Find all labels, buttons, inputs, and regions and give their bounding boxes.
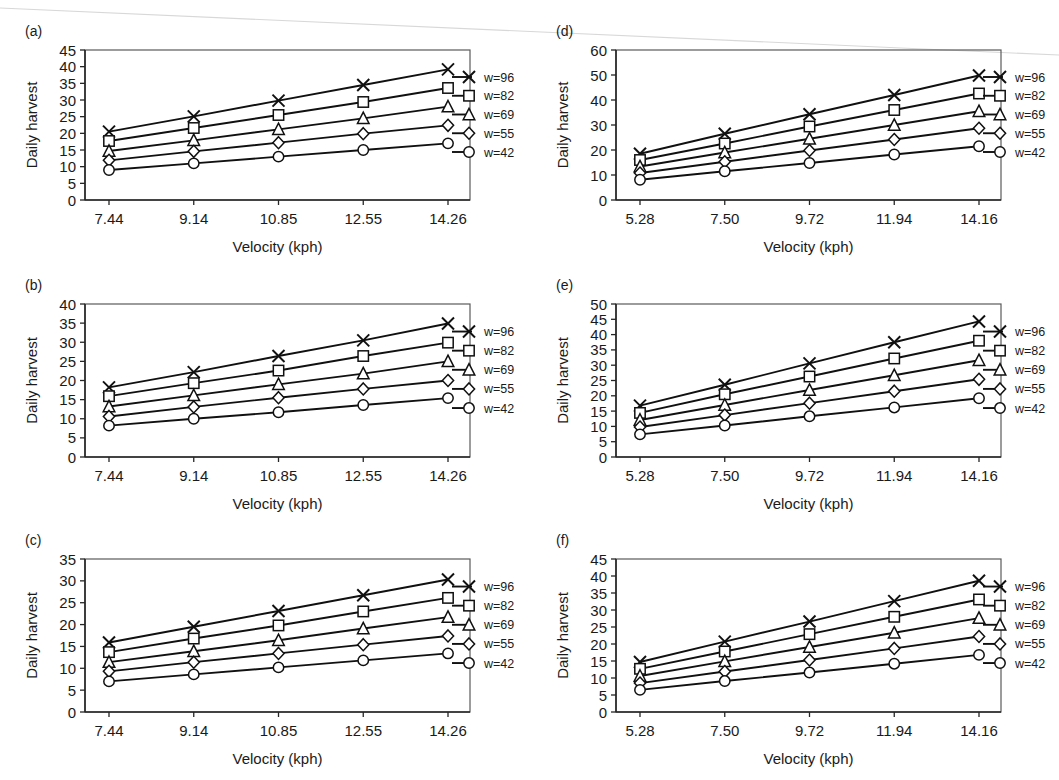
panel-f-plot: (f)0510152025303540455.287.509.7211.9414… bbox=[529, 527, 1059, 777]
panel-f-legend-label: w=96 bbox=[1014, 580, 1045, 594]
panel-b-legend-entry-w-96: w=96 bbox=[452, 325, 514, 339]
panel-a-legend-label: w=82 bbox=[483, 89, 514, 103]
circle-marker-icon bbox=[995, 403, 1005, 413]
panel-d-point-w-42-1 bbox=[720, 166, 730, 176]
panel-d-y-axis-title: Daily harvest bbox=[554, 81, 571, 169]
panel-e-x-tick-label: 9.72 bbox=[795, 467, 824, 484]
panel-e-point-w-55-2 bbox=[804, 397, 815, 409]
panel-c-x-tick-label: 12.55 bbox=[344, 722, 382, 739]
panel-e-point-w-42-2 bbox=[804, 411, 814, 421]
panel-a-y-tick-label: 5 bbox=[68, 175, 76, 192]
panel-f-point-w-69-4 bbox=[973, 612, 985, 623]
panel-f-y-tick-label: 20 bbox=[590, 636, 607, 653]
panel-c-y-axis-title: Daily harvest bbox=[23, 591, 40, 679]
panel-b-y-tick-label: 5 bbox=[68, 429, 76, 446]
panel-c-legend-entry-w-42: w=42 bbox=[452, 657, 514, 671]
panel-a-y-tick-label: 20 bbox=[59, 125, 76, 142]
panel-b-legend-entry-w-55: w=55 bbox=[452, 382, 514, 396]
panel-f-y-axis-title: Daily harvest bbox=[554, 591, 571, 679]
panel-a-y-tick-label: 15 bbox=[59, 142, 76, 159]
panel-b-legend-label: w=42 bbox=[483, 402, 514, 416]
panel-d-legend-entry-w-96: w=96 bbox=[983, 71, 1045, 85]
panel-c-y-tick-label: 20 bbox=[59, 616, 76, 633]
panel-e-y-tick-label: 30 bbox=[590, 357, 607, 374]
panel-b-point-w-82-4 bbox=[443, 337, 453, 347]
panel-c-point-w-42-1 bbox=[189, 669, 199, 679]
panel-d-y-tick-label: 0 bbox=[599, 192, 607, 209]
panel-a-y-tick-label: 10 bbox=[59, 158, 76, 175]
panel-f-point-w-42-3 bbox=[889, 659, 899, 669]
panel-c-point-w-55-1 bbox=[188, 656, 199, 668]
panel-f-y-tick-label: 45 bbox=[590, 551, 607, 568]
panel-e-legend-entry-w-69: w=69 bbox=[983, 363, 1045, 377]
panel-a-legend-entry-w-42: w=42 bbox=[452, 146, 514, 160]
panel-d-x-tick-label: 14.16 bbox=[960, 210, 998, 227]
panel-d-x-axis-title: Velocity (kph) bbox=[763, 238, 853, 255]
diamond-marker-icon bbox=[994, 127, 1005, 139]
panel-c-x-tick-label: 7.44 bbox=[94, 722, 123, 739]
panel-c-x-axis-title: Velocity (kph) bbox=[232, 750, 322, 767]
panel-f-point-w-55-4 bbox=[973, 631, 984, 643]
panel-c-legend-label: w=42 bbox=[483, 657, 514, 671]
panel-c-point-w-82-4 bbox=[443, 593, 453, 603]
panel-e-legend-entry-w-55: w=55 bbox=[983, 382, 1045, 396]
panel-d-y-tick-label: 60 bbox=[590, 42, 607, 59]
panel-c-point-w-42-0 bbox=[104, 676, 114, 686]
panel-c-point-w-69-4 bbox=[442, 611, 454, 622]
panel-f-y-tick-label: 30 bbox=[590, 602, 607, 619]
panel-c-point-w-55-2 bbox=[273, 647, 284, 659]
panel-d-point-w-42-0 bbox=[635, 175, 645, 185]
panel-d-x-tick-label: 11.94 bbox=[876, 210, 912, 227]
panel-a-point-w-82-2 bbox=[273, 110, 283, 120]
panel-f-point-w-42-4 bbox=[974, 650, 984, 660]
panel-a-x-tick-label: 10.85 bbox=[260, 210, 298, 227]
panel-b-y-tick-label: 30 bbox=[59, 334, 76, 351]
panel-e-y-tick-label: 25 bbox=[590, 372, 607, 389]
panel-c-legend-entry-w-69: w=69 bbox=[452, 618, 514, 632]
panel-e-legend-label: w=42 bbox=[1014, 402, 1045, 416]
circle-marker-icon bbox=[464, 658, 474, 668]
panel-b-point-w-42-1 bbox=[189, 414, 199, 424]
panel-c-point-w-82-2 bbox=[273, 620, 283, 630]
square-marker-icon bbox=[464, 91, 474, 101]
panel-f-y-tick-label: 35 bbox=[590, 585, 607, 602]
panel-e-point-w-42-4 bbox=[974, 393, 984, 403]
panel-f-point-w-55-2 bbox=[804, 654, 815, 666]
panel-a-point-w-55-3 bbox=[358, 128, 369, 140]
panel-d-legend-label: w=55 bbox=[1014, 127, 1045, 141]
panel-e-label: (e) bbox=[556, 277, 573, 293]
panel-b-point-w-42-2 bbox=[273, 407, 283, 417]
panel-f-legend-entry-w-96: w=96 bbox=[983, 580, 1045, 594]
figure-container: (a)0510152025303540457.449.1410.8512.551… bbox=[0, 0, 1059, 780]
panel-e-legend-entry-w-42: w=42 bbox=[983, 402, 1045, 416]
panel-d-legend-entry-w-82: w=82 bbox=[983, 89, 1045, 103]
panel-a-legend-entry-w-82: w=82 bbox=[452, 89, 514, 103]
panel-e-legend-label: w=55 bbox=[1014, 382, 1045, 396]
panel-e-point-w-96-4 bbox=[973, 315, 985, 327]
panel-e-point-w-69-4 bbox=[973, 354, 985, 365]
panel-d-legend-entry-w-42: w=42 bbox=[983, 146, 1045, 160]
panel-c-x-tick-label: 14.26 bbox=[429, 722, 467, 739]
panel-f-point-w-96-2 bbox=[804, 616, 816, 628]
panel-f-legend-label: w=42 bbox=[1014, 657, 1045, 671]
panel-a-y-tick-label: 35 bbox=[59, 75, 76, 92]
panel-c-legend-label: w=96 bbox=[483, 580, 514, 594]
panel-b-point-w-42-0 bbox=[104, 420, 114, 430]
panel-c-x-tick-label: 10.85 bbox=[260, 722, 298, 739]
panel-d-point-w-82-2 bbox=[804, 121, 814, 131]
panel-d-y-tick-label: 20 bbox=[590, 142, 607, 159]
panel-a-point-w-55-4 bbox=[442, 119, 453, 131]
panel-f-legend-entry-w-82: w=82 bbox=[983, 599, 1045, 613]
panel-f-y-tick-label: 10 bbox=[590, 670, 607, 687]
panel-f-point-w-96-3 bbox=[888, 595, 900, 607]
panel-f-x-tick-label: 5.28 bbox=[625, 722, 654, 739]
panel-b-legend-entry-w-69: w=69 bbox=[452, 363, 514, 377]
panel-b-y-tick-label: 20 bbox=[59, 372, 76, 389]
panel-e-plot: (e)051015202530354045505.287.509.7211.94… bbox=[529, 272, 1059, 522]
panel-e-point-w-42-0 bbox=[635, 429, 645, 439]
panel-c-point-w-42-3 bbox=[358, 655, 368, 665]
panel-b-point-w-55-3 bbox=[358, 383, 369, 395]
panel-d-y-tick-label: 40 bbox=[590, 92, 607, 109]
panel-c-y-tick-label: 10 bbox=[59, 660, 76, 677]
panel-b-point-w-55-2 bbox=[273, 392, 284, 404]
